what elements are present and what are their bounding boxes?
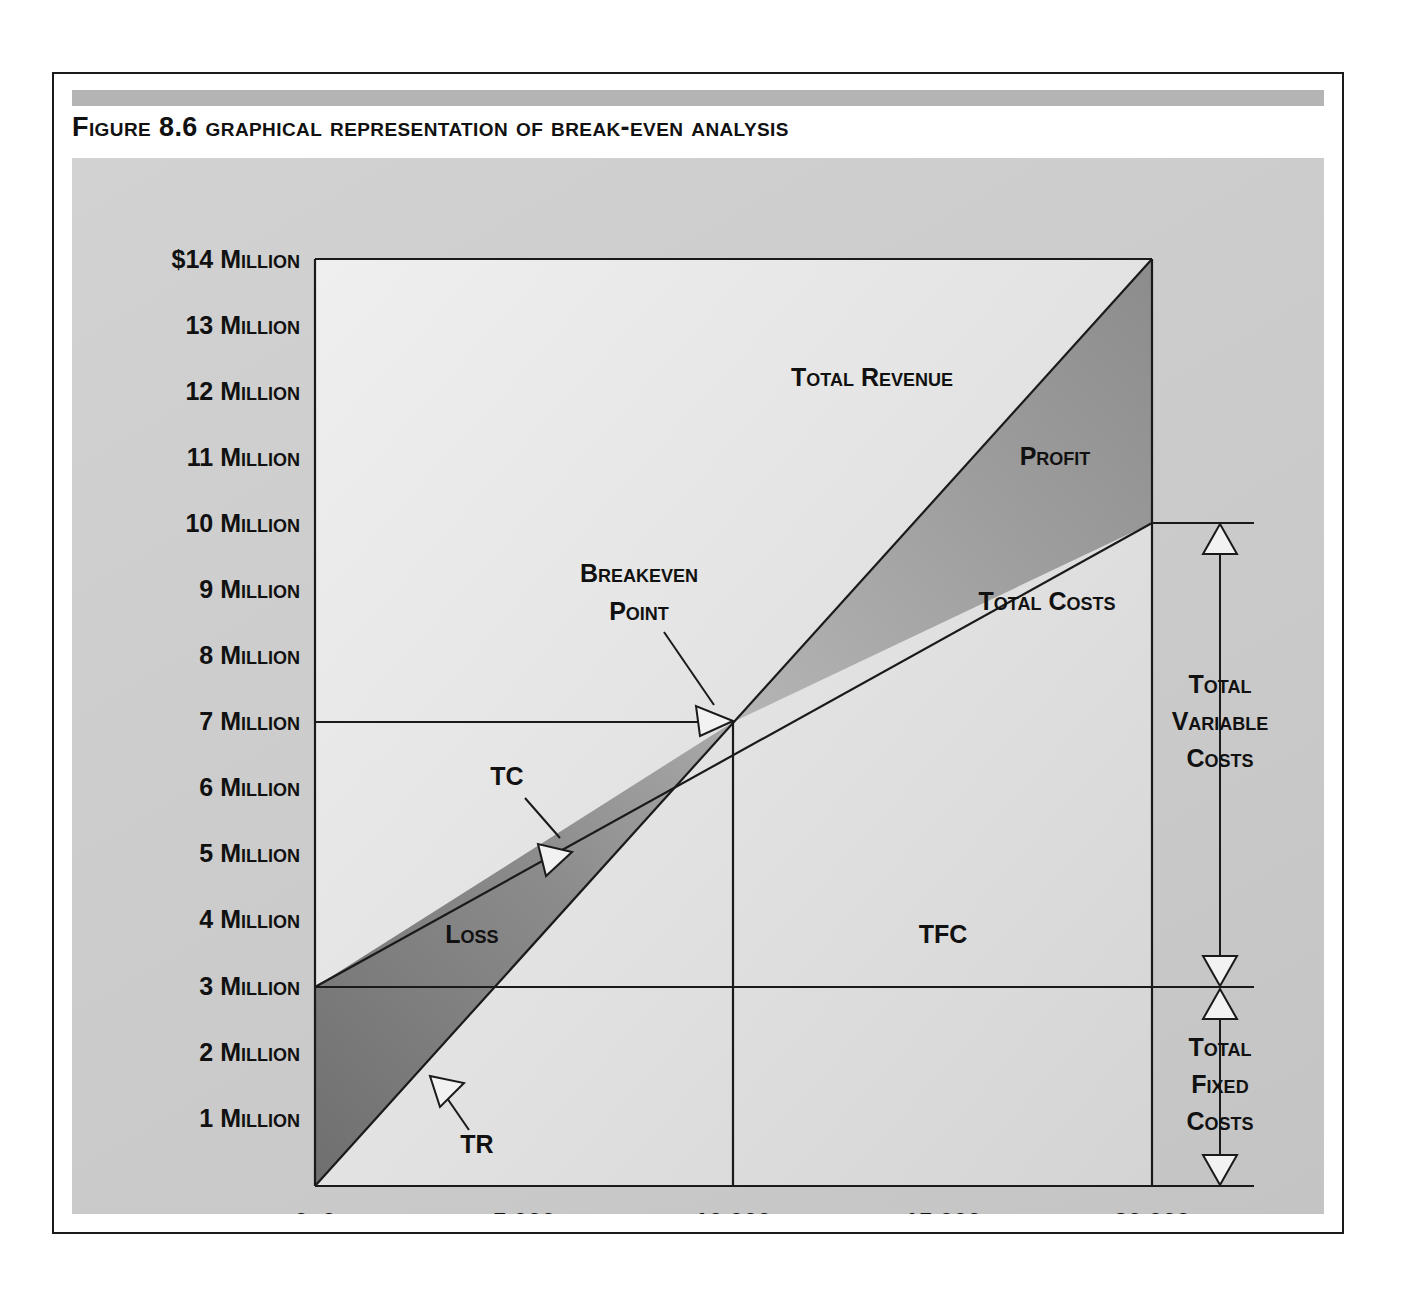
breakeven-label-line1: Breakeven: [580, 559, 698, 587]
y-tick-label-9m: 9 Million: [199, 575, 300, 603]
tvc-arrow-down-icon: [1203, 956, 1237, 986]
y-tick-label-10m: 10 Million: [185, 509, 300, 537]
y-tick-label-2m: 2 Million: [199, 1038, 300, 1066]
total-revenue-label: Total Revenue: [791, 363, 953, 391]
y-tick-label-14m: $14 Million: [172, 245, 300, 273]
y-tick-label-5m: 5 Million: [199, 839, 300, 867]
tfc-arrow-down-icon: [1203, 1155, 1237, 1185]
tvc-label-line3: Costs: [1186, 744, 1253, 772]
x-tick-label-0: 0, 0: [294, 1208, 336, 1214]
tfc-bracket-label-line3: Costs: [1186, 1107, 1253, 1135]
y-tick-label-13m: 13 Million: [185, 311, 300, 339]
x-tick-label-20000: 20,000: [1114, 1208, 1190, 1214]
y-tick-label-3m: 3 Million: [199, 972, 300, 1000]
tfc-arrow-up-icon: [1203, 989, 1237, 1019]
loss-label: Loss: [445, 920, 498, 948]
tc-label: TC: [490, 762, 523, 790]
tfc-bracket-label-line1: Total: [1189, 1033, 1252, 1061]
y-tick-label-8m: 8 Million: [199, 641, 300, 669]
y-tick-label-4m: 4 Million: [199, 905, 300, 933]
decorative-band-top: [72, 90, 1324, 106]
y-tick-label-7m: 7 Million: [199, 707, 300, 735]
figure-frame: Figure 8.6 Graphical Representation of B…: [52, 72, 1344, 1234]
y-tick-label-12m: 12 Million: [185, 377, 300, 405]
tfc-label: TFC: [919, 920, 968, 948]
tvc-label-line2: Variable: [1172, 707, 1269, 735]
tvc-label-line1: Total: [1189, 670, 1252, 698]
x-tick-label-10000: 10,000: [695, 1208, 771, 1214]
y-tick-label-11m: 11 Million: [187, 443, 300, 471]
breakeven-chart: $14 Million 13 Million 12 Million 11 Mil…: [72, 158, 1324, 1214]
y-tick-label-1m: 1 Million: [199, 1104, 300, 1132]
tfc-bracket-label-line2: Fixed: [1191, 1070, 1248, 1098]
tr-label: TR: [460, 1130, 493, 1158]
profit-label: Profit: [1020, 442, 1091, 470]
x-tick-label-5000: 5,000: [493, 1208, 556, 1214]
figure-title: Figure 8.6 Graphical Representation of B…: [72, 112, 789, 152]
total-costs-label: Total Costs: [979, 587, 1116, 615]
y-tick-label-6m: 6 Million: [199, 773, 300, 801]
tvc-arrow-up-icon: [1203, 524, 1237, 554]
chart-panel: $14 Million 13 Million 12 Million 11 Mil…: [72, 158, 1324, 1214]
breakeven-label-line2: Point: [609, 597, 669, 625]
x-tick-label-15000: 15,000: [905, 1208, 981, 1214]
